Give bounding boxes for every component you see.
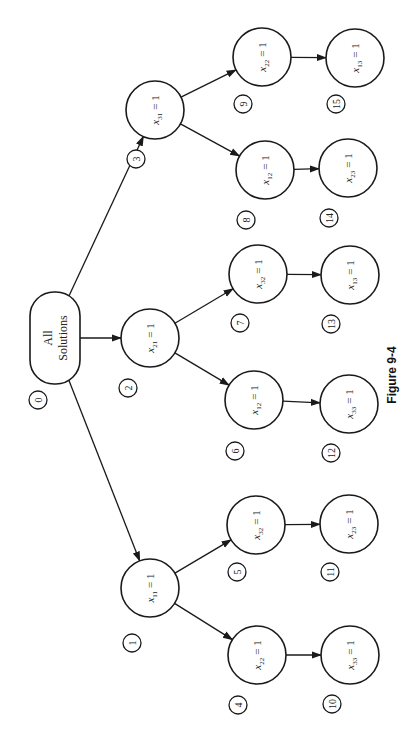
node-8: x12= 18 — [236, 141, 294, 229]
edges-layer — [68, 57, 326, 655]
node-number: 5 — [232, 570, 243, 575]
root-number-badge: 0 — [29, 391, 47, 409]
node-number: 4 — [233, 703, 244, 708]
node-number-badge: 7 — [231, 314, 249, 332]
node-number-badge: 10 — [323, 695, 341, 713]
node-number-badge: 2 — [119, 379, 137, 397]
node-13: x13= 113 — [321, 246, 379, 333]
node-number-badge: 1 — [123, 634, 141, 652]
edge-1-5 — [175, 540, 231, 573]
node-number-badge: 15 — [327, 95, 345, 113]
node-number: 6 — [230, 449, 241, 454]
node-number: 9 — [238, 102, 249, 107]
edge-2-7 — [175, 289, 233, 323]
edge-2-6 — [175, 353, 229, 385]
node-number: 8 — [241, 218, 252, 223]
node-number-badge: 6 — [226, 442, 244, 460]
node-number-badge: 5 — [228, 563, 246, 581]
node-3: x31= 13 — [126, 81, 184, 168]
root-label-line1: All — [41, 330, 55, 346]
node-4: x22= 14 — [228, 626, 286, 714]
node-number-badge: 11 — [321, 563, 339, 581]
node-number-badge: 9 — [234, 95, 252, 113]
nodes-layer: x11= 11x21= 12x31= 13x22= 14x32= 15x12= … — [119, 28, 384, 714]
node-number: 11 — [325, 567, 336, 577]
tree-diagram: All Solutions 0 x11= 11x21= 12x31= 13x22… — [0, 0, 420, 730]
node-11: x23= 111 — [320, 495, 378, 581]
figure-caption-group: Figure 9-4 — [385, 346, 399, 404]
node-number: 1 — [127, 641, 138, 646]
root-node: All Solutions — [30, 292, 80, 384]
edge-3-9 — [181, 70, 236, 97]
node-6: x12= 16 — [225, 371, 283, 460]
node-number: 10 — [327, 699, 338, 709]
root-label-line2: Solutions — [56, 315, 70, 361]
node-number: 13 — [326, 319, 337, 329]
node-number-badge: 12 — [322, 444, 340, 462]
node-number-badge: 13 — [322, 315, 340, 333]
node-number: 15 — [331, 99, 342, 109]
node-number-badge: 14 — [320, 209, 338, 227]
node-9: x22= 19 — [233, 28, 291, 113]
node-2: x21= 12 — [119, 309, 179, 397]
node-12: x33= 112 — [320, 375, 378, 462]
node-15: x13= 115 — [326, 29, 384, 113]
node-1: x11= 11 — [121, 559, 179, 652]
root-pill — [30, 292, 80, 384]
node-number-badge: 8 — [237, 211, 255, 229]
node-number: 12 — [326, 448, 337, 458]
edge-8-14 — [294, 169, 319, 170]
node-number: 3 — [131, 157, 142, 162]
edge-6-12 — [283, 401, 320, 403]
edge-3-8 — [180, 124, 239, 156]
node-7: x32= 17 — [229, 245, 287, 332]
node-5: x32= 15 — [227, 496, 285, 581]
root-number: 0 — [33, 398, 44, 403]
node-14: x23= 114 — [319, 139, 377, 227]
edge-0-1 — [68, 378, 140, 561]
node-10: x33= 110 — [321, 626, 379, 713]
figure-caption: Figure 9-4 — [385, 346, 399, 404]
node-number: 2 — [123, 386, 134, 391]
node-number-badge: 4 — [229, 696, 247, 714]
node-number: 7 — [235, 321, 246, 326]
node-number-badge: 3 — [127, 150, 145, 168]
node-number: 14 — [324, 213, 335, 223]
edge-1-4 — [175, 603, 233, 639]
